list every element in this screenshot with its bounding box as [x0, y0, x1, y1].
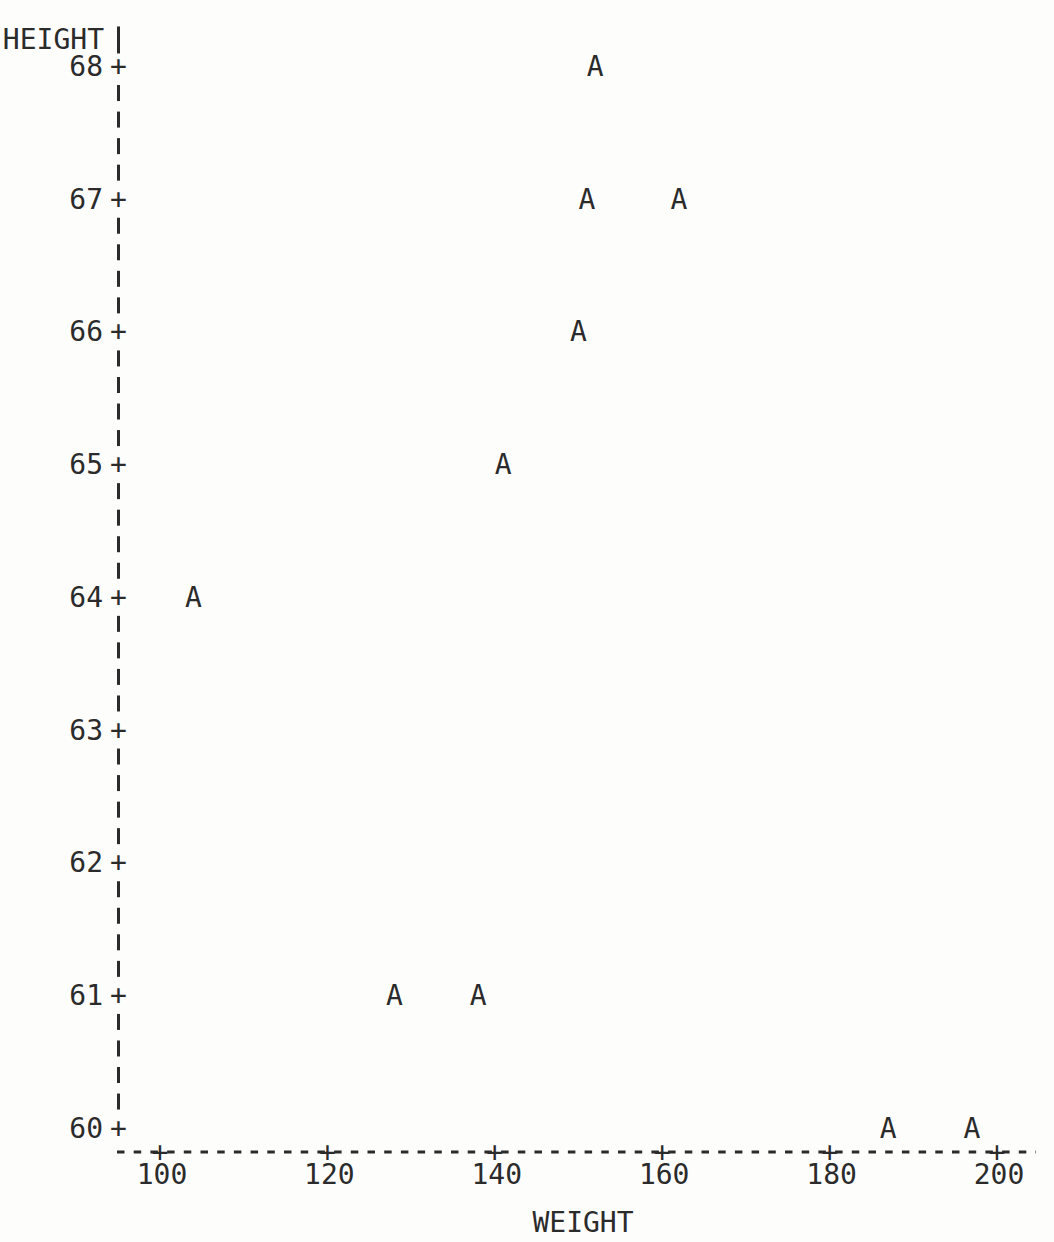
- y-tick-label: 67: [69, 183, 103, 216]
- data-point-marker: A: [671, 183, 688, 216]
- data-point-marker: A: [578, 183, 595, 216]
- x-tick-label: 200: [974, 1158, 1025, 1191]
- x-tick-label: 160: [639, 1158, 690, 1191]
- x-tick-label: 180: [806, 1158, 857, 1191]
- data-point-marker: A: [495, 448, 512, 481]
- x-tick-label: 140: [472, 1158, 523, 1191]
- y-tick-label: 63: [69, 714, 103, 747]
- data-point-marker: A: [185, 581, 202, 614]
- y-tick-mark: +: [110, 714, 127, 747]
- scatter-plot: HEIGHT68+67+66+65+64+63+62+61+60++100+12…: [0, 0, 1054, 1242]
- data-point-marker: A: [880, 1112, 897, 1145]
- y-tick-mark: +: [110, 979, 127, 1012]
- y-tick-mark: +: [110, 448, 127, 481]
- y-tick-label: 61: [69, 979, 103, 1012]
- printer-plot-page: HEIGHT68+67+66+65+64+63+62+61+60++100+12…: [0, 0, 1054, 1242]
- x-tick-label: 120: [304, 1158, 355, 1191]
- data-point-marker: A: [963, 1112, 980, 1145]
- y-tick-mark: +: [110, 50, 127, 83]
- y-tick-label: 60: [69, 1112, 103, 1145]
- x-tick-label: 100: [137, 1158, 188, 1191]
- y-tick-label: 66: [69, 315, 103, 348]
- y-tick-label: 64: [69, 581, 103, 614]
- data-point-marker: A: [386, 979, 403, 1012]
- y-tick-mark: +: [110, 315, 127, 348]
- y-tick-mark: +: [110, 581, 127, 614]
- plot-svg: HEIGHT68+67+66+65+64+63+62+61+60++100+12…: [0, 0, 1054, 1242]
- y-tick-label: 68: [69, 50, 103, 83]
- data-point-marker: A: [587, 50, 604, 83]
- data-point-marker: A: [570, 315, 587, 348]
- y-tick-mark: +: [110, 1112, 127, 1145]
- y-tick-mark: +: [110, 183, 127, 216]
- data-point-marker: A: [470, 979, 487, 1012]
- y-tick-label: 65: [69, 448, 103, 481]
- x-axis-title: WEIGHT: [532, 1206, 633, 1239]
- y-tick-label: 62: [69, 846, 103, 879]
- y-tick-mark: +: [110, 846, 127, 879]
